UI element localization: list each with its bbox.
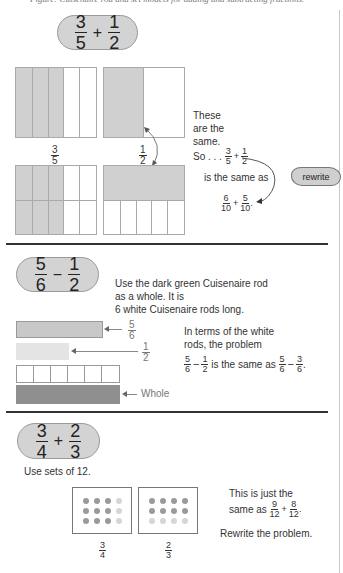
page-caption: Figure: Cuisenaire rod and set models fo…: [30, 0, 330, 4]
section-divider-1: [6, 243, 328, 245]
tenths-grid-b: [103, 165, 185, 235]
label-whole: Whole: [141, 388, 169, 399]
result-expression: 610 + 510 .: [221, 194, 253, 213]
tenths-grid-a: [15, 165, 97, 235]
note-these-same: These are the same.: [193, 109, 224, 148]
double-arrow-icon: [140, 126, 170, 168]
rod-intro: Use the dark green Cuisenaire rod as a w…: [115, 277, 268, 316]
problem-pill-2: 56 − 12: [16, 257, 99, 292]
fraction: 35: [75, 13, 87, 52]
fifths-grid: [15, 67, 97, 138]
label-one-half-rod: 12: [142, 341, 150, 363]
same-as-text: is the same as: [204, 171, 268, 184]
label-three-fifths: 35: [51, 143, 59, 166]
white-rods: [16, 365, 120, 383]
label-three-fourths: 34: [99, 538, 106, 560]
problem-pill-1: 35 + 12: [57, 15, 138, 50]
rewrite-instruction: Rewrite the problem.: [220, 527, 312, 540]
just-the-same-text: This is just the: [229, 487, 293, 500]
sets-intro: Use sets of 12.: [24, 465, 91, 478]
compare-expression: 56 − 12 is the same as 56 − 36 .: [184, 355, 306, 374]
rod-five-sixths: [16, 321, 103, 338]
label-five-sixths: 56: [128, 319, 136, 341]
problem-pill-3: 34 + 23: [17, 423, 100, 459]
page-edge: [339, 10, 340, 573]
section-divider-2: [6, 411, 328, 413]
dot-set-three-fourths: [72, 487, 132, 534]
same-as-expression: same as 912 + 812 .: [229, 500, 301, 519]
label-two-thirds: 23: [165, 538, 172, 560]
rod-dark-green-whole: [16, 385, 120, 404]
terms-text: In terms of the white rods, the problem: [184, 325, 274, 351]
fraction: 12: [108, 13, 120, 52]
dot-set-two-thirds: [138, 487, 198, 534]
rewrite-cloud: rewrite: [291, 167, 341, 186]
rod-one-half: [16, 343, 69, 360]
